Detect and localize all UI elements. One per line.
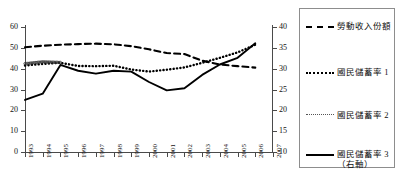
legend-label-savings-rate-3-axis-note: （右軸）: [337, 159, 388, 169]
legend-label-savings-rate-3-main: 國民儲蓄率 3: [337, 149, 388, 159]
legend-item-savings-rate-3[interactable]: 國民儲蓄率 3（右軸）: [306, 149, 394, 169]
legend-item-labor-income-share[interactable]: 勞動收入份額: [306, 21, 394, 33]
legend-swatch-dotted-icon: [306, 67, 334, 79]
legend-swatch-solid-icon: [306, 149, 334, 161]
legend-box: 勞動收入份額 國民儲蓄率 1 國民儲蓄率 2 國民儲蓄率 3（右軸）: [299, 8, 395, 168]
legend-label-savings-rate-1: 國民儲蓄率 1: [337, 67, 388, 77]
legend-label-savings-rate-3: 國民儲蓄率 3（右軸）: [337, 149, 388, 169]
legend-swatch-circles-icon: [306, 110, 334, 122]
legend-label-labor-income-share: 勞動收入份額: [337, 21, 391, 31]
chart-container: 0102030405060 10152025303540 19931994199…: [0, 0, 402, 184]
legend-item-savings-rate-2[interactable]: 國民儲蓄率 2: [306, 110, 394, 122]
legend-swatch-dashed-icon: [306, 21, 334, 33]
legend-item-savings-rate-1[interactable]: 國民儲蓄率 1: [306, 67, 394, 79]
legend-label-savings-rate-2: 國民儲蓄率 2: [337, 110, 388, 120]
